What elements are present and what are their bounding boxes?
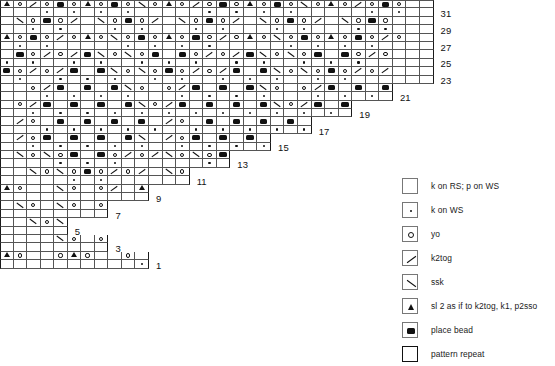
chart-cell	[81, 42, 95, 50]
chart-cell	[135, 76, 149, 84]
chart-cell	[230, 143, 244, 151]
chart-cell	[230, 50, 244, 58]
chart-row	[0, 134, 434, 142]
chart-cell	[352, 67, 366, 75]
chart-cell	[0, 134, 14, 142]
chart-cell	[379, 42, 393, 50]
chart-cell	[0, 260, 14, 268]
bead-icon	[81, 84, 94, 91]
chart-cell	[298, 0, 312, 8]
cdd-icon	[1, 1, 13, 7]
yo-icon	[203, 151, 216, 158]
yo-icon	[54, 50, 67, 57]
chart-cell	[163, 8, 177, 16]
dot-icon	[312, 92, 325, 99]
chart-cell	[0, 67, 14, 75]
k2tog-icon	[135, 168, 148, 175]
chart-cell	[163, 50, 177, 58]
chart-cell	[0, 227, 14, 235]
chart-cell	[108, 109, 122, 117]
dot-icon	[95, 8, 108, 15]
yo-icon	[68, 168, 81, 175]
dot-icon	[54, 76, 67, 83]
chart-cell	[271, 34, 285, 42]
chart-cell	[108, 8, 122, 16]
yo-icon	[379, 17, 392, 24]
chart-cell	[230, 34, 244, 42]
dot-icon	[41, 8, 54, 15]
chart-cell	[27, 260, 41, 268]
dot-icon	[108, 109, 121, 116]
cdd-icon	[325, 34, 338, 41]
ssk-icon	[54, 185, 67, 192]
yo-icon	[176, 168, 189, 175]
chart-cell	[366, 0, 380, 8]
chart-cell	[95, 59, 109, 67]
dot-icon	[257, 92, 270, 99]
chart-cell	[41, 92, 55, 100]
chart-cell	[284, 117, 298, 125]
legend-label: sl 2 as if to k2tog, k1, p2sso	[431, 301, 537, 311]
legend-label: k on WS	[431, 205, 463, 215]
chart-cell	[230, 67, 244, 75]
chart-cell	[149, 143, 163, 151]
chart-cell	[149, 101, 163, 109]
ssk-icon	[257, 50, 270, 57]
chart-cell	[190, 17, 204, 25]
ssk-icon	[95, 50, 108, 57]
chart-cell	[352, 0, 366, 8]
chart-cell	[325, 25, 339, 33]
chart-cell	[312, 0, 326, 8]
ssk-icon	[298, 1, 311, 7]
chart-cell	[95, 168, 109, 176]
chart-cell	[352, 25, 366, 33]
legend-swatch	[402, 250, 418, 266]
chart-cell	[41, 76, 55, 84]
ssk-icon	[122, 84, 135, 91]
chart-cell	[108, 34, 122, 42]
yo-icon	[271, 84, 284, 91]
bead-icon	[41, 134, 54, 141]
yo-icon	[257, 34, 270, 41]
chart-cell	[163, 109, 177, 117]
chart-cell	[122, 101, 136, 109]
dot-icon	[163, 59, 176, 66]
chart-cell	[95, 76, 109, 84]
bead-icon	[284, 117, 297, 124]
dot-icon	[257, 8, 270, 15]
chart-cell	[54, 185, 68, 193]
chart-cell	[339, 59, 353, 67]
chart-cell	[122, 8, 136, 16]
chart-cell	[41, 8, 55, 16]
chart-cell	[190, 67, 204, 75]
chart-cell	[95, 92, 109, 100]
chart-cell	[217, 50, 231, 58]
yo-icon	[176, 34, 189, 41]
chart-cell	[122, 34, 136, 42]
row-number: 11	[197, 177, 207, 187]
chart-cell	[27, 67, 41, 75]
chart-cell	[135, 168, 149, 176]
chart-cell	[95, 109, 109, 117]
chart-cell	[203, 84, 217, 92]
chart-cell	[95, 252, 109, 260]
chart-cell	[271, 101, 285, 109]
chart-cell	[41, 227, 55, 235]
chart-cell	[393, 17, 407, 25]
dot-icon	[325, 109, 338, 116]
chart-cell	[325, 17, 339, 25]
row-number: 9	[156, 194, 161, 204]
chart-cell	[312, 76, 326, 84]
yo-icon	[203, 34, 216, 41]
chart-cell	[41, 117, 55, 125]
bead-icon	[339, 101, 352, 108]
chart-cell	[163, 17, 177, 25]
chart-cell	[217, 126, 231, 134]
chart-cell	[54, 201, 68, 209]
chart-cell	[339, 76, 353, 84]
cdd-icon	[1, 252, 13, 259]
chart-cell	[68, 252, 82, 260]
chart-cell	[393, 67, 407, 75]
chart-cell	[41, 235, 55, 243]
chart-cell	[54, 126, 68, 134]
